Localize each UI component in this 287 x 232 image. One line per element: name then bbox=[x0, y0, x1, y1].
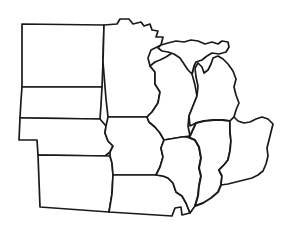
midwest-outline-map: North DakotaSouth DakotaNebraskaKansasMi… bbox=[0, 0, 287, 232]
state-north-dakota[interactable]: North Dakota bbox=[22, 24, 104, 87]
state-kansas[interactable]: Kansas bbox=[38, 155, 113, 212]
state-south-dakota[interactable]: South Dakota bbox=[20, 87, 102, 119]
map-figure: North DakotaSouth DakotaNebraskaKansasMi… bbox=[0, 0, 287, 232]
